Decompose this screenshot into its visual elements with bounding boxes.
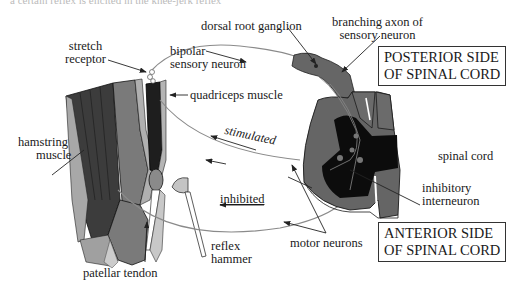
label-line: receptor xyxy=(65,53,106,66)
box-line: OF SPINAL CORD xyxy=(384,66,500,83)
label-stretch-receptor: stretch receptor xyxy=(65,40,106,66)
label-inhibitory-interneuron: inhibitory interneuron xyxy=(422,182,480,208)
label-line: sensory neuron xyxy=(332,29,423,42)
label-line: interneuron xyxy=(422,195,480,208)
label-reflex-hammer: reflex hammer xyxy=(211,240,252,266)
label-dorsal-root-ganglion: dorsal root ganglion xyxy=(201,20,302,33)
label-hamstring-muscle: hamstring muscle xyxy=(18,136,71,162)
label-line: sensory neuron xyxy=(170,58,246,71)
label-bipolar-sensory-neuron: bipolar sensory neuron xyxy=(170,45,246,71)
box-line: ANTERIOR SIDE xyxy=(384,225,500,242)
label-line: hammer xyxy=(211,253,252,266)
label-spinal-cord: spinal cord xyxy=(438,150,493,163)
leg-illustration xyxy=(66,70,166,269)
label-motor-neurons: motor neurons xyxy=(290,237,363,250)
label-inhibited: inhibited xyxy=(220,193,264,206)
posterior-side-box: POSTERIOR SIDE OF SPINAL CORD xyxy=(378,46,506,86)
label-line: muscle xyxy=(18,149,71,162)
label-quadriceps-muscle: quadriceps muscle xyxy=(190,89,283,102)
anterior-side-box: ANTERIOR SIDE OF SPINAL CORD xyxy=(378,222,506,262)
stretch-receptor-shape xyxy=(148,70,156,84)
box-line: OF SPINAL CORD xyxy=(384,242,500,259)
box-line: POSTERIOR SIDE xyxy=(384,49,500,66)
label-branching-axon: branching axon of sensory neuron xyxy=(332,16,423,42)
reflex-hammer-shape xyxy=(172,178,206,257)
label-patellar-tendon: patellar tendon xyxy=(83,267,158,280)
